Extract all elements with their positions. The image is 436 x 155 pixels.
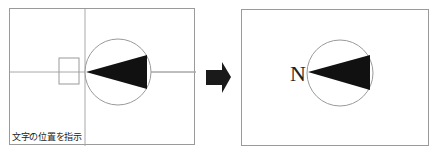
text-position-box[interactable]: [59, 58, 79, 84]
after-panel: N: [241, 9, 429, 146]
before-panel: 文字の位置を指示: [9, 8, 195, 145]
compass-result-canvas: N: [242, 10, 430, 147]
compass-setup-canvas: [10, 9, 196, 146]
instruction-caption: 文字の位置を指示: [12, 130, 82, 143]
right-arrow-icon: [206, 62, 231, 93]
north-label: N: [290, 61, 306, 86]
